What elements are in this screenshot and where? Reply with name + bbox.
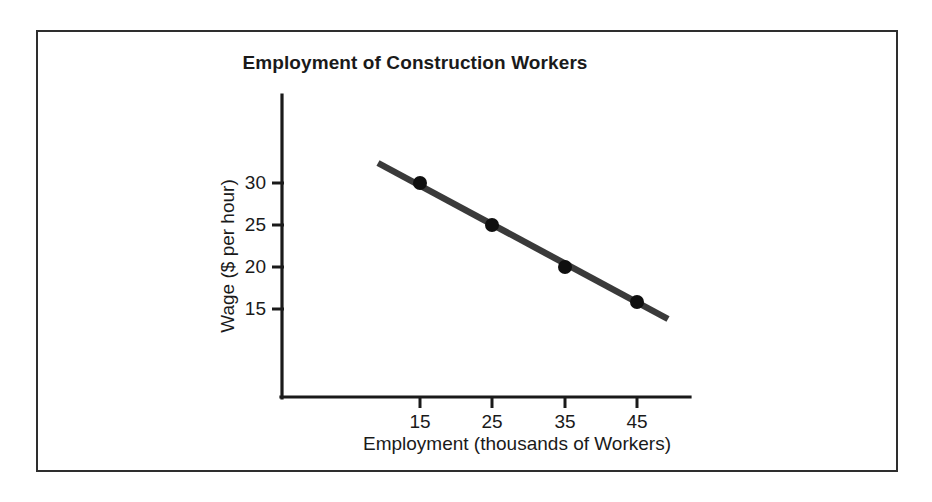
data-point-45-15 [630,295,644,309]
x-axis-title: Employment (thousands of Workers) [317,433,717,455]
x-tick-label-15: 15 [400,411,440,433]
data-point-35-20 [558,260,572,274]
x-tick-label-35: 35 [545,411,585,433]
x-tick-label-45: 45 [617,411,657,433]
x-tick-label-25: 25 [472,411,512,433]
data-point-15-30 [413,176,427,190]
figure-container: Employment of Construction Workers 30 25… [0,0,932,502]
y-axis-title: Wage ($ per hour) [217,156,239,356]
chart-plot-area [0,0,932,502]
data-point-25-25 [485,218,499,232]
